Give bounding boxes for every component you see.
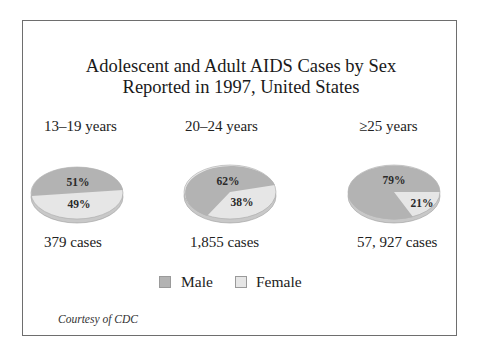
source-credit: Courtesy of CDC xyxy=(58,313,138,325)
cases-25-plus: 57, 927 cases xyxy=(357,234,437,251)
legend: Male Female xyxy=(0,272,482,292)
legend-label-female: Female xyxy=(256,273,302,291)
pie-25-plus: 79% 21% xyxy=(348,165,440,223)
pct-male: 79% xyxy=(383,174,406,186)
pct-male: 51% xyxy=(67,176,90,188)
pct-female: 21% xyxy=(411,197,434,209)
pct-female: 49% xyxy=(68,198,91,210)
pie-charts: 51% 49% 62% 38% 79% 21% xyxy=(0,0,482,358)
pie-20-24: 62% 38% xyxy=(184,165,276,223)
cases-20-24: 1,855 cases xyxy=(190,234,259,251)
pie-13-19: 51% 49% xyxy=(31,167,123,223)
cases-13-19: 379 cases xyxy=(44,234,102,251)
legend-swatch-male xyxy=(159,276,171,288)
legend-swatch-female xyxy=(235,276,247,288)
pct-male: 62% xyxy=(217,175,240,187)
pct-female: 38% xyxy=(231,196,254,208)
legend-label-male: Male xyxy=(181,273,213,291)
